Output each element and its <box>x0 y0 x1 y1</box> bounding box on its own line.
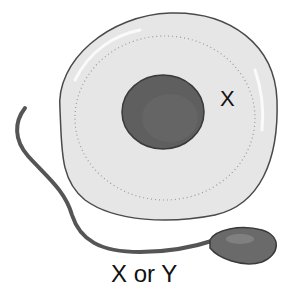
fertilization-diagram <box>0 0 297 290</box>
sperm-head-highlight <box>226 234 254 244</box>
sperm-chromosome-label: X or Y <box>111 262 177 286</box>
sperm-head <box>210 228 276 264</box>
egg-chromosome-label: X <box>220 88 235 110</box>
nucleus-shade <box>142 94 198 142</box>
egg-cell <box>60 13 277 220</box>
